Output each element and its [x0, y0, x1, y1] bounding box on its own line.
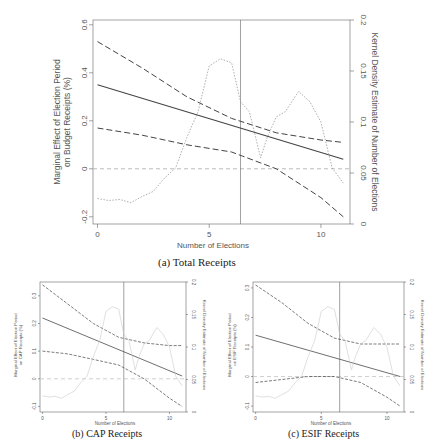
plot-frame [253, 282, 404, 412]
x-tick-label: 10 [384, 416, 390, 421]
plot-area: 0510-0.100.10.20.300.050.10.150.2 [32, 279, 196, 421]
plot-area: 0510-0.200.20.40.600.050.10.150.2 [80, 14, 368, 239]
y-axis-label-line2: on Budget Receipts (%) [62, 77, 72, 167]
y2-tick-label: 0.1 [191, 344, 196, 351]
y-tick-label: 0.4 [80, 67, 89, 79]
y2-tick-label: 0.2 [191, 279, 196, 286]
y2-tick-label: 0.2 [359, 14, 368, 26]
y-tick-label: 0.1 [245, 343, 250, 350]
y-axis-label-line2: on ESIF Receipts (%) [232, 324, 237, 366]
y-tick-label: -0.2 [80, 209, 89, 223]
caption-b: (b) CAP Receipts [72, 428, 142, 439]
y-tick-label: 0 [80, 166, 89, 171]
y-tick-label: 0.2 [80, 115, 89, 127]
plot-area: 0510-0.100.10.20.300.050.10.150.2 [245, 279, 414, 421]
marginal-effect-line [256, 335, 401, 376]
y-tick-label: 0.1 [32, 348, 37, 355]
y2-tick-label: 0 [191, 411, 196, 414]
y2-tick-label: 0.1 [409, 344, 414, 351]
y2-tick-label: 0 [359, 222, 368, 227]
confidence-interval-line [256, 377, 401, 407]
y2-tick-label: 0.2 [409, 279, 414, 286]
y2-axis-label: Kernel Density Estimate of Number of Ele… [420, 300, 425, 391]
y-axis-label-line1: Marginal Effect of Election Period [52, 59, 62, 185]
x-tick-label: 0 [95, 230, 100, 239]
y-tick-label: 0.3 [245, 284, 250, 291]
y-tick-label: 0.3 [32, 292, 37, 299]
x-tick-label: 0 [41, 416, 44, 421]
x-tick-label: 5 [320, 416, 323, 421]
marginal-effect-line [43, 318, 183, 376]
y2-tick-label: 0.15 [409, 310, 414, 319]
y2-tick-label: 0.05 [359, 165, 368, 181]
chart-total-receipts: 0510-0.200.20.40.600.050.10.150.2 Margin… [0, 0, 435, 255]
x-axis-label: Number of Elections [95, 421, 136, 426]
y-tick-label: -0.1 [245, 402, 250, 410]
y2-tick-label: 0.15 [359, 63, 368, 79]
chart-cap-receipts: 0510-0.100.10.20.300.050.10.150.2 Margin… [0, 270, 215, 430]
x-tick-label: 5 [105, 416, 108, 421]
confidence-interval-line [98, 128, 344, 217]
x-tick-label: 10 [316, 230, 325, 239]
y2-tick-label: 0.05 [191, 375, 196, 384]
y-tick-label: 0.2 [245, 314, 250, 321]
y2-tick-label: 0.05 [409, 375, 414, 384]
x-tick-label: 0 [254, 416, 257, 421]
x-tick-label: 5 [207, 230, 212, 239]
x-axis-label: Number of Elections [177, 241, 249, 250]
x-axis-label: Number of Elections [311, 421, 352, 426]
y-tick-label: 0 [245, 375, 250, 378]
y2-tick-label: 0.15 [191, 310, 196, 319]
y-axis-label-line2: on CAP Receipts (%) [18, 324, 23, 365]
x-tick-label: 10 [167, 416, 173, 421]
y-tick-label: 0.6 [80, 19, 89, 31]
marginal-effect-line [98, 85, 344, 159]
kernel-density-line [256, 307, 401, 399]
kernel-density-line [43, 307, 183, 399]
confidence-interval-line [256, 285, 401, 344]
y2-axis-label: Kernel Density Estimate of Number of Ele… [202, 300, 207, 391]
y2-axis-label: Kernel Density Estimate of Number of Ele… [370, 32, 380, 211]
confidence-interval-line [43, 285, 183, 346]
y-tick-label: 0.2 [32, 320, 37, 327]
y2-tick-label: 0.1 [359, 116, 368, 128]
chart-esif-receipts: 0510-0.100.10.20.300.050.10.150.2 Margin… [218, 270, 435, 430]
caption-c: (c) ESIF Receipts [288, 428, 359, 439]
kernel-density-line [98, 59, 344, 203]
caption-a: (a) Total Receipts [158, 256, 236, 268]
confidence-interval-line [98, 42, 344, 143]
y-tick-label: -0.1 [32, 402, 37, 410]
y2-tick-label: 0 [409, 411, 414, 414]
y-tick-label: 0 [32, 377, 37, 380]
